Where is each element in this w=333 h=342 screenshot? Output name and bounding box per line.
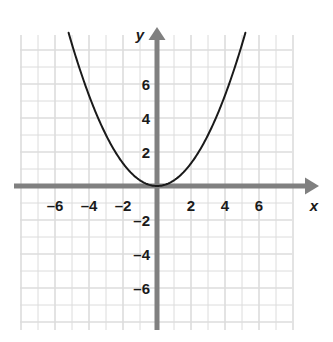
- x-tick-label: –2: [115, 197, 132, 214]
- y-tick-label: –6: [133, 280, 150, 297]
- x-axis-arrowhead: [305, 178, 319, 195]
- y-axis-label: y: [135, 26, 145, 43]
- y-axis-arrowhead: [149, 27, 166, 40]
- coordinate-plane-svg: –6–4–2246 –6–4–2246 x y: [0, 0, 333, 342]
- y-tick-label: –2: [133, 212, 150, 229]
- x-tick-label: 2: [187, 197, 195, 214]
- x-tick-label: –6: [47, 197, 64, 214]
- y-tick-label: 2: [142, 144, 150, 161]
- axes: [14, 27, 319, 330]
- x-tick-label: –4: [81, 197, 98, 214]
- x-tick-label: 6: [255, 197, 263, 214]
- y-tick-label: 4: [142, 110, 151, 127]
- x-axis-label: x: [309, 197, 319, 214]
- graph-figure: –6–4–2246 –6–4–2246 x y: [0, 0, 333, 342]
- y-tick-label: –4: [133, 246, 150, 263]
- y-tick-label: 6: [142, 76, 150, 93]
- x-tick-label: 4: [221, 197, 230, 214]
